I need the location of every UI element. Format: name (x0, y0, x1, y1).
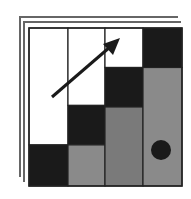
chart-icon (0, 0, 191, 199)
column-3-segment-2 (105, 68, 143, 108)
column-2-segment-2 (68, 105, 105, 145)
column-4-segment-1 (143, 28, 182, 68)
column-1-segment-2 (29, 145, 68, 186)
column-4-segment-2 (143, 68, 182, 187)
column-3-segment-3 (105, 107, 143, 186)
dot-marker-icon (151, 140, 171, 160)
column-2-segment-3 (68, 145, 105, 186)
